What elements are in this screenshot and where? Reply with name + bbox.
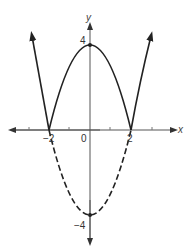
- y-tick-label-neg4: −4: [74, 220, 86, 231]
- graph-canvas: y x 4 −4 −2 0 2: [0, 0, 193, 248]
- x-tick-label-neg2: −2: [43, 133, 55, 144]
- right-branch: [131, 36, 151, 130]
- x-tick-label-0: 0: [81, 133, 87, 144]
- left-branch: [32, 36, 49, 130]
- x-tick-label-2: 2: [127, 133, 133, 144]
- x-axis-label: x: [177, 124, 184, 135]
- y-tick-label-4: 4: [80, 35, 86, 46]
- y-axis-label: y: [85, 12, 92, 23]
- vertex-top-point: [88, 43, 92, 47]
- vertex-bottom-point: [88, 213, 92, 217]
